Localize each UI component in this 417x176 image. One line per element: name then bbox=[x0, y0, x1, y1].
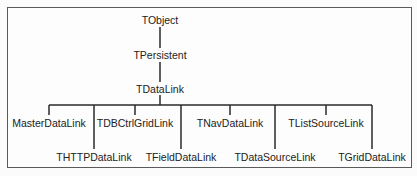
node-tdatalink: TDataLink bbox=[136, 83, 184, 95]
node-thttpdatalink: THTTPDataLink bbox=[56, 151, 131, 163]
node-tlistsourcelink: TListSourceLink bbox=[288, 117, 363, 129]
node-tobject: TObject bbox=[142, 14, 179, 26]
node-tgriddatalink: TGridDataLink bbox=[338, 151, 406, 163]
hierarchy-connectors bbox=[0, 0, 417, 176]
node-tpersistent: TPersistent bbox=[133, 49, 186, 61]
node-tnavdatalink: TNavDataLink bbox=[197, 117, 264, 129]
node-tdbctrlgridlink: TDBCtrlGridLink bbox=[97, 117, 173, 129]
node-tdatasourcelink: TDataSourceLink bbox=[234, 151, 315, 163]
node-tfielddatalink: TFieldDataLink bbox=[146, 151, 217, 163]
node-masterdatalink: MasterDataLink bbox=[12, 117, 86, 129]
